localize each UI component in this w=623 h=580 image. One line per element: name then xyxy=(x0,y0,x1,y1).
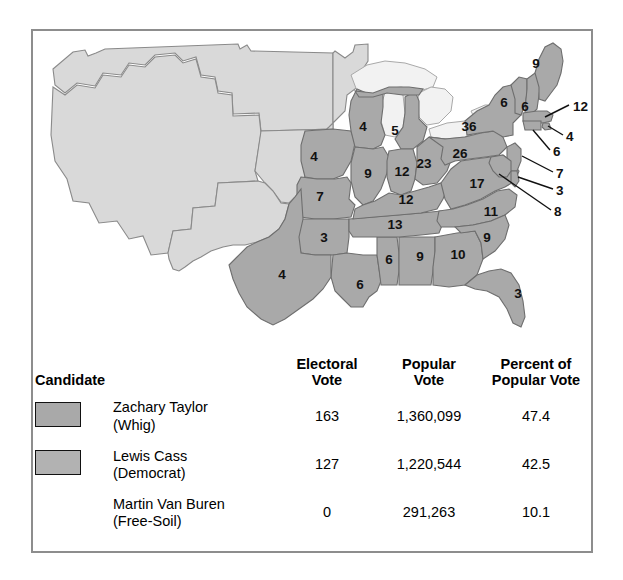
label-wisconsin: 4 xyxy=(359,119,367,134)
popular-vote-democrat: 1,220,544 xyxy=(373,441,485,489)
percent-popular-democrat: 42.5 xyxy=(485,441,587,489)
free-soil-color-swatch xyxy=(35,498,81,523)
election-results-table: Candidate ElectoralVote PopularVote Perc… xyxy=(35,356,587,537)
state-connecticut xyxy=(523,121,541,130)
lake-huron xyxy=(417,87,453,125)
header-electoral-vote: ElectoralVote xyxy=(281,356,373,392)
label-iowa: 4 xyxy=(310,149,318,164)
election-map-figure: 9 6 6 36 26 23 5 4 4 9 12 7 12 17 13 11 … xyxy=(0,0,623,580)
header-popular-vote: PopularVote xyxy=(373,356,485,392)
us-electoral-map: 9 6 6 36 26 23 5 4 4 9 12 7 12 17 13 11 … xyxy=(33,31,591,351)
header-candidate: Candidate xyxy=(35,356,281,392)
election-results-table-area: Candidate ElectoralVote PopularVote Perc… xyxy=(33,356,591,548)
electoral-vote-free-soil: 0 xyxy=(281,489,373,537)
percent-popular-whig: 47.4 xyxy=(485,392,587,440)
label-arkansas: 3 xyxy=(320,230,328,245)
state-wisconsin xyxy=(349,89,385,149)
label-virginia: 17 xyxy=(469,176,484,191)
state-missouri xyxy=(297,177,355,219)
callout-label-new-jersey: 7 xyxy=(556,166,564,181)
legend-swatch-cell-free-soil xyxy=(35,489,113,537)
leader-connecticut xyxy=(533,130,550,150)
header-percent-popular-vote: Percent ofPopular Vote xyxy=(485,356,587,392)
label-mississippi: 6 xyxy=(385,252,393,267)
label-alabama: 9 xyxy=(416,249,424,264)
candidate-name-whig: Zachary Taylor(Whig) xyxy=(113,392,281,440)
table-row: Lewis Cass(Democrat) 127 1,220,544 42.5 xyxy=(35,441,587,489)
percent-popular-free-soil: 10.1 xyxy=(485,489,587,537)
label-south-carolina: 9 xyxy=(483,230,491,245)
label-kentucky: 12 xyxy=(398,192,413,207)
table-row: Martin Van Buren(Free-Soil) 0 291,263 10… xyxy=(35,489,587,537)
label-new-hampshire: 6 xyxy=(521,99,529,114)
label-indiana: 12 xyxy=(394,164,409,179)
leader-delaware xyxy=(518,177,553,189)
table-row: Zachary Taylor(Whig) 163 1,360,099 47.4 xyxy=(35,392,587,440)
label-north-carolina: 11 xyxy=(484,204,499,219)
popular-vote-free-soil: 291,263 xyxy=(373,489,485,537)
label-louisiana: 6 xyxy=(356,277,364,292)
democrat-color-swatch xyxy=(35,450,81,475)
candidate-name-free-soil: Martin Van Buren(Free-Soil) xyxy=(113,489,281,537)
callout-label-rhode-island: 4 xyxy=(566,129,574,144)
legend-swatch-cell-whig xyxy=(35,392,113,440)
label-tennessee: 13 xyxy=(387,217,403,232)
label-ohio: 23 xyxy=(416,156,432,171)
label-vermont: 6 xyxy=(500,95,508,110)
candidate-name-democrat: Lewis Cass(Democrat) xyxy=(113,441,281,489)
whig-color-swatch xyxy=(35,402,81,427)
table-header-row: Candidate ElectoralVote PopularVote Perc… xyxy=(35,356,587,392)
map-svg: 9 6 6 36 26 23 5 4 4 9 12 7 12 17 13 11 … xyxy=(33,31,591,351)
label-maine: 9 xyxy=(532,56,540,71)
label-new-york: 36 xyxy=(461,119,477,134)
electoral-vote-democrat: 127 xyxy=(281,441,373,489)
label-pennsylvania: 26 xyxy=(452,146,468,161)
callout-label-maryland: 8 xyxy=(554,204,562,219)
callout-label-delaware: 3 xyxy=(556,183,564,198)
label-missouri: 7 xyxy=(316,189,324,204)
callout-label-connecticut: 6 xyxy=(553,144,561,159)
label-illinois: 9 xyxy=(364,166,372,181)
state-maine xyxy=(535,43,563,101)
legend-swatch-cell-democrat xyxy=(35,441,113,489)
leader-rhode-island xyxy=(548,126,563,135)
label-georgia: 10 xyxy=(450,247,465,262)
callout-label-massachusetts: 12 xyxy=(573,99,588,114)
state-iowa xyxy=(301,129,355,179)
label-florida: 3 xyxy=(514,286,522,301)
leader-massachusetts xyxy=(545,105,569,117)
label-texas: 4 xyxy=(278,267,286,282)
leader-new-jersey xyxy=(522,156,553,172)
electoral-vote-whig: 163 xyxy=(281,392,373,440)
popular-vote-whig: 1,360,099 xyxy=(373,392,485,440)
label-michigan: 5 xyxy=(391,123,399,138)
